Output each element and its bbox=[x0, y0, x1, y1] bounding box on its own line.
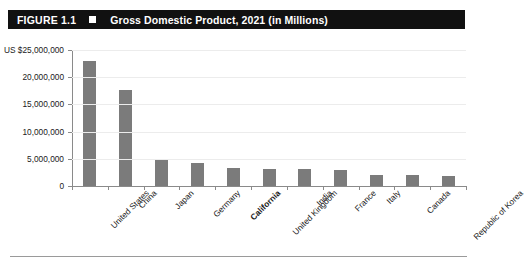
bar bbox=[406, 175, 419, 186]
gridline bbox=[72, 132, 466, 133]
y-axis-tick-label: 10,000,000 bbox=[0, 127, 64, 137]
x-axis-tick bbox=[323, 186, 324, 190]
figure-title: Gross Domestic Product, 2021 (in Million… bbox=[110, 14, 328, 26]
x-axis-tick-label: France bbox=[352, 188, 377, 213]
bar-series bbox=[72, 50, 466, 186]
bar bbox=[191, 163, 204, 186]
bar bbox=[227, 168, 240, 186]
gridline bbox=[72, 159, 466, 160]
x-axis-tick-label: Italy bbox=[385, 188, 403, 206]
bar bbox=[155, 159, 168, 186]
bar bbox=[334, 170, 347, 186]
white-square-marker-icon bbox=[89, 16, 96, 23]
x-axis-tick bbox=[215, 186, 216, 190]
y-axis-tick-label: 0 bbox=[0, 181, 64, 191]
bar bbox=[83, 61, 96, 186]
y-axis-tick-label: 5,000,000 bbox=[0, 154, 64, 164]
x-axis-tick bbox=[179, 186, 180, 190]
x-axis-tick bbox=[466, 186, 467, 190]
x-axis-tick bbox=[287, 186, 288, 190]
x-axis-tick bbox=[108, 186, 109, 190]
gridline bbox=[72, 50, 466, 51]
footer-divider bbox=[10, 256, 467, 257]
bar bbox=[263, 169, 276, 186]
y-axis-tick-label: 20,000,000 bbox=[0, 72, 64, 82]
x-axis-tick-label: Canada bbox=[425, 188, 453, 216]
x-axis-tick bbox=[72, 186, 73, 190]
y-axis-tick bbox=[68, 104, 72, 105]
bar bbox=[442, 176, 455, 186]
y-axis-tick bbox=[68, 159, 72, 160]
x-axis-tick bbox=[251, 186, 252, 190]
gridline bbox=[72, 104, 466, 105]
x-axis-tick-label: Republic of Korea bbox=[471, 188, 525, 242]
figure-number: FIGURE 1.1 bbox=[17, 14, 76, 26]
y-axis-tick bbox=[68, 50, 72, 51]
x-axis-tick-label: Japan bbox=[172, 188, 195, 211]
x-axis-tick-label: California bbox=[248, 188, 282, 222]
y-axis-tick-label: US $25,000,000 bbox=[0, 45, 64, 55]
plot-area: US $25,000,00020,000,00015,000,00010,000… bbox=[72, 50, 466, 186]
x-axis-tick bbox=[359, 186, 360, 190]
bar bbox=[370, 175, 383, 186]
y-axis-tick bbox=[68, 77, 72, 78]
bar bbox=[298, 169, 311, 186]
x-axis-tick bbox=[430, 186, 431, 190]
y-axis-tick-label: 15,000,000 bbox=[0, 99, 64, 109]
x-axis-tick-label: Germany bbox=[211, 188, 242, 219]
y-axis-tick bbox=[68, 132, 72, 133]
x-axis-line bbox=[72, 186, 466, 187]
gridline bbox=[72, 77, 466, 78]
figure-title-bar: FIGURE 1.1 Gross Domestic Product, 2021 … bbox=[8, 10, 465, 29]
